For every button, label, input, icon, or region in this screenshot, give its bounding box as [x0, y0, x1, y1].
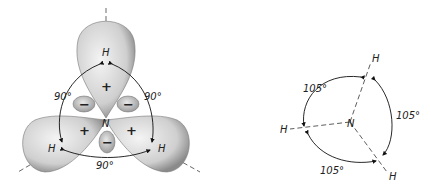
angle-105-right: 105°	[396, 110, 420, 121]
angle-105-left: 105°	[303, 83, 327, 94]
n-left: N	[102, 118, 110, 129]
plus-right: +	[126, 123, 137, 138]
nh3-diagram: H H H N 90° 90° 90° + + + − − − H H H N …	[0, 0, 431, 192]
bond-top	[350, 62, 371, 122]
orbital-diagram: H H H N 90° 90° 90° + + + − − −	[18, 8, 200, 172]
left-lobe	[23, 116, 106, 172]
h-bottom-right: H	[389, 171, 397, 182]
h-top-right: H	[372, 53, 380, 64]
right-lobe	[106, 116, 189, 172]
h-right: H	[158, 143, 166, 154]
plus-left: +	[79, 123, 90, 138]
bond-right	[350, 122, 387, 172]
angle-105-bottom: 105°	[320, 165, 344, 176]
h-left: H	[48, 143, 56, 154]
arc-105-bottom	[308, 134, 376, 162]
h-top: H	[102, 47, 110, 58]
angle-bottom: 90°	[96, 160, 114, 171]
minus-right: −	[123, 97, 134, 112]
bond-left	[290, 122, 350, 129]
h-left-right: H	[280, 124, 288, 135]
plus-top: +	[101, 79, 112, 94]
angle-right: 90°	[144, 91, 162, 102]
arc-105-right	[375, 80, 392, 155]
angle-left: 90°	[54, 91, 72, 102]
n-right: N	[347, 118, 355, 129]
minus-left: −	[79, 97, 90, 112]
bond-angle-diagram: H H H N 105° 105° 105°	[280, 53, 420, 182]
minus-bottom: −	[102, 135, 113, 150]
